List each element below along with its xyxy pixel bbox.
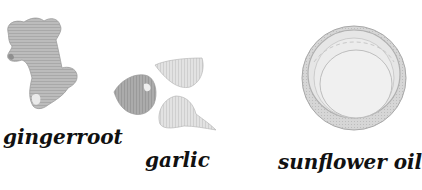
sunflower-oil-label: sunflower oil (278, 152, 422, 172)
sunflower-oil-image (300, 22, 410, 134)
garlic-label: garlic (145, 150, 210, 170)
garlic-image (100, 50, 220, 140)
gingerroot-image (0, 0, 110, 120)
